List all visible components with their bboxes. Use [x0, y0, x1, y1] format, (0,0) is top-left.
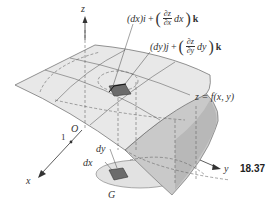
vector-y-trail: dy	[197, 41, 206, 52]
partial-z-y-fraction: ∂z ∂y	[186, 38, 195, 55]
vector-y-plus: +	[171, 41, 177, 52]
vector-y-unit: k	[216, 41, 222, 52]
paren-open: (	[179, 39, 184, 55]
x-axis-label: x	[26, 176, 30, 186]
unit-mark	[70, 141, 73, 144]
vector-x-lead: (dx)i	[127, 13, 146, 24]
z-axis-label: z	[81, 4, 85, 14]
vector-x-trail: dx	[174, 13, 183, 24]
figure-number: 18.37	[240, 163, 265, 174]
surface-equation: z = f(x, y)	[195, 92, 234, 102]
partial-z-x-fraction: ∂z ∂x	[163, 10, 172, 27]
vector-y-lead: (dy)j	[150, 41, 169, 52]
y-axis-arrow	[212, 164, 221, 170]
vector-x-unit: k	[193, 13, 199, 24]
paren-close: )	[208, 39, 213, 55]
region-label: G	[108, 190, 115, 200]
z-axis-arrow	[83, 16, 88, 23]
dy-label: dy	[96, 144, 105, 154]
unit-mark-label: 1	[61, 133, 66, 142]
tangent-vector-x-formula: (dx)i + ( ∂z ∂x dx ) k	[127, 10, 198, 27]
y-axis-label: y	[224, 164, 228, 174]
diagram-canvas	[0, 0, 280, 205]
x-axis-arrow	[38, 170, 46, 178]
vector-x-plus: +	[148, 13, 154, 24]
origin-label: O	[71, 124, 78, 134]
dx-label: dx	[83, 158, 92, 168]
paren-close: )	[185, 11, 190, 27]
paren-open: (	[156, 11, 161, 27]
tangent-vector-y-formula: (dy)j + ( ∂z ∂y dy ) k	[150, 38, 221, 55]
